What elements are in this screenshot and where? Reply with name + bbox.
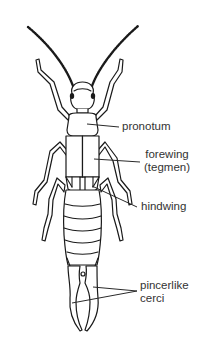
forewing-label: forewing (tegmen): [144, 148, 190, 174]
right-forewing: [83, 136, 100, 177]
left-hind-leg: [42, 178, 65, 241]
pronotum-label: pronotum: [122, 120, 171, 133]
cerci-label-line2: cerci: [140, 292, 189, 305]
left-cercus: [68, 266, 82, 331]
head-capsule: [71, 82, 94, 109]
left-forewing: [66, 136, 83, 177]
head: [70, 82, 95, 113]
right-eye: [91, 93, 95, 99]
forewing-label-line1: forewing: [144, 148, 190, 161]
forewing-label-line2: (tegmen): [144, 161, 190, 174]
forewings: [66, 136, 99, 177]
antennae: [28, 26, 138, 89]
cerci-label-line1: pincerlike: [140, 279, 189, 292]
anal-plate: [81, 272, 85, 276]
cerci-leader-lower: [72, 291, 137, 303]
right-front-leg: [95, 59, 123, 120]
hindwing-label: hindwing: [141, 200, 186, 213]
cerci-leader-upper: [93, 287, 137, 291]
left-eye: [70, 93, 74, 99]
abdomen: [64, 190, 102, 276]
cerci-label: pincerlike cerci: [140, 279, 189, 305]
right-hind-leg: [100, 178, 123, 241]
